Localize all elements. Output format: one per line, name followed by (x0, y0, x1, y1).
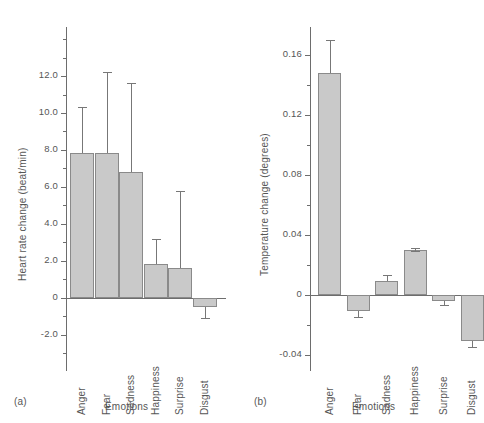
bar (404, 250, 427, 295)
y-axis-tick-label: 0.08 (262, 168, 302, 179)
y-axis-tick-label: 4.0 (18, 217, 58, 228)
bar (347, 295, 370, 311)
error-bar (180, 191, 181, 269)
error-bar (82, 107, 83, 152)
bar (375, 281, 398, 294)
x-axis-category-label: Disgust (199, 380, 210, 415)
x-axis-category-label: Happiness (409, 366, 420, 415)
error-bar (156, 239, 157, 264)
error-bar-cap (152, 239, 161, 240)
y-axis-minor-tick (63, 168, 67, 169)
x-axis-category-label: Disgust (466, 380, 477, 415)
y-axis-minor-tick (63, 95, 67, 96)
error-bar (107, 72, 108, 152)
y-axis-tick (305, 55, 311, 56)
panel-label-a: (a) (14, 396, 27, 407)
x-axis-category-label: Surprise (438, 376, 449, 415)
x-axis-title-b: Emotions (352, 401, 395, 412)
y-axis-tick-label: 0 (262, 288, 302, 299)
y-axis-tick (61, 261, 67, 262)
y-axis-spine (66, 27, 67, 371)
x-axis-category-label: Anger (324, 387, 335, 415)
y-axis-tick (61, 187, 67, 188)
error-bar-cap (411, 251, 420, 252)
error-bar-cap (468, 347, 477, 348)
y-axis-tick (61, 335, 67, 336)
y-axis-minor-tick (307, 145, 311, 146)
panel-label-b: (b) (254, 396, 267, 407)
y-axis-tick-label: 8.0 (18, 143, 58, 154)
y-axis-tick (61, 113, 67, 114)
chart-panel-b: Temperature change (degrees) 0.160.120.0… (242, 0, 483, 423)
y-axis-minor-tick (63, 279, 67, 280)
error-bar (330, 40, 331, 73)
bar (144, 264, 168, 298)
y-axis-tick-label: 0 (18, 291, 58, 302)
bar (318, 73, 341, 295)
y-axis-tick (305, 115, 311, 116)
error-bar-cap (103, 72, 112, 73)
y-axis-tick (61, 150, 67, 151)
plot-area-a: 12.010.08.06.04.02.00-2.0AngerFearSadnes… (0, 0, 242, 423)
y-axis-tick (305, 235, 311, 236)
error-bar-cap (326, 40, 335, 41)
error-bar-cap (440, 305, 449, 306)
y-axis-minor-tick (307, 205, 311, 206)
error-bar-cap (78, 107, 87, 108)
y-axis-minor-tick (307, 265, 311, 266)
y-axis-tick-label: -2.0 (18, 328, 58, 339)
y-axis-tick-label: 0.12 (262, 108, 302, 119)
y-axis-tick (61, 76, 67, 77)
plot-area-b: 0.160.120.080.040-0.04AngerFearSadnessHa… (242, 0, 483, 423)
y-axis-tick (61, 224, 67, 225)
y-axis-minor-tick (63, 316, 67, 317)
bar (193, 298, 217, 307)
y-axis-tick (305, 355, 311, 356)
error-bar (387, 275, 388, 281)
y-axis-minor-tick (63, 58, 67, 59)
y-axis-tick-label: 0.04 (262, 228, 302, 239)
error-bar-cap (176, 191, 185, 192)
error-bar (131, 83, 132, 172)
chart-panel-a: Heart rate change (beat/min) 12.010.08.0… (0, 0, 242, 423)
y-axis-tick-label: -0.04 (262, 348, 302, 359)
bar (119, 172, 143, 298)
error-bar-cap (127, 83, 136, 84)
bar (70, 153, 94, 298)
y-axis-spine (310, 27, 311, 371)
error-bar (205, 307, 206, 318)
bar (461, 295, 484, 341)
error-bar-cap (354, 317, 363, 318)
y-axis-minor-tick (63, 353, 67, 354)
x-axis-title-a: Emotions (105, 401, 148, 412)
y-axis-minor-tick (63, 131, 67, 132)
x-axis-category-label: Happiness (150, 366, 161, 415)
y-axis-minor-tick (307, 325, 311, 326)
error-bar-cap (383, 275, 392, 276)
y-axis-tick-label: 2.0 (18, 254, 58, 265)
bar (168, 268, 192, 298)
y-axis-tick-label: 6.0 (18, 180, 58, 191)
error-bar-cap (411, 248, 420, 249)
y-axis-tick-label: 0.16 (262, 48, 302, 59)
y-axis-tick (305, 175, 311, 176)
y-axis-minor-tick (63, 39, 67, 40)
x-axis-category-label: Anger (76, 387, 87, 415)
error-bar-cap (201, 318, 210, 319)
y-axis-minor-tick (63, 205, 67, 206)
y-axis-tick-label: 12.0 (18, 69, 58, 80)
x-axis-category-label: Surprise (174, 376, 185, 415)
y-axis-tick-label: 10.0 (18, 106, 58, 117)
y-axis-minor-tick (307, 85, 311, 86)
bar (95, 153, 119, 298)
y-axis-minor-tick (63, 242, 67, 243)
